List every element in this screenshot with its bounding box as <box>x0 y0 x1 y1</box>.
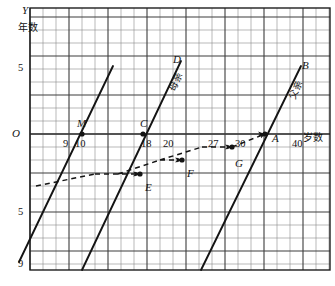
point-label-G: G <box>235 158 243 169</box>
point-label-M: M <box>77 118 86 129</box>
figure-canvas: Y 年数 岁数 5O59 9101820273040 MCDBAGFE 母亲父亲 <box>0 0 335 286</box>
point-label-B: B <box>302 60 309 71</box>
y-tick-5: 5 <box>18 63 23 74</box>
y-tick-O: O <box>12 128 20 139</box>
y-tick-5: 5 <box>18 207 23 218</box>
point-label-A: A <box>272 133 279 144</box>
x-tick-10: 10 <box>75 139 86 150</box>
x-tick-9: 9 <box>63 139 68 150</box>
point-label-D: D <box>173 54 181 65</box>
y-axis-unit-label: 年数 <box>18 22 31 34</box>
x-tick-40: 40 <box>292 139 303 150</box>
point-label-C: C <box>140 118 147 129</box>
x-tick-30: 30 <box>235 139 246 150</box>
x-tick-18: 18 <box>141 139 152 150</box>
x-tick-20: 20 <box>163 139 174 150</box>
x-axis-unit-label: 岁数 <box>303 133 323 143</box>
point-label-F: F <box>187 168 194 179</box>
x-tick-27: 27 <box>208 139 219 150</box>
y-tick-9: 9 <box>18 259 23 270</box>
point-label-E: E <box>145 182 152 193</box>
y-axis-name: Y <box>22 5 28 16</box>
